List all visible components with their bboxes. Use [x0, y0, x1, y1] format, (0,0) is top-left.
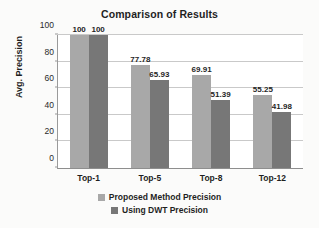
bar[interactable]: 77.78	[131, 65, 150, 168]
bar[interactable]: 100	[89, 35, 108, 168]
y-tick-label: 80	[45, 47, 54, 57]
bar[interactable]: 65.93	[150, 80, 169, 168]
bar-group: 69.9151.39Top-8	[181, 35, 242, 168]
y-tick-label: 40	[45, 100, 54, 110]
bar-value-label: 69.91	[192, 65, 212, 74]
x-tick-label: Top-5	[139, 173, 162, 183]
bar-value-label: 100	[72, 25, 85, 34]
legend-swatch	[98, 194, 105, 201]
y-tick-label: 100	[40, 20, 54, 30]
bar-pair: 100100	[70, 35, 108, 168]
bar[interactable]: 100	[70, 35, 89, 168]
legend-label: Using DWT Precision	[122, 205, 208, 215]
bar-value-label: 65.93	[149, 70, 169, 79]
legend-item[interactable]: Proposed Method Precision	[98, 192, 221, 202]
bar-pair: 77.7865.93	[131, 35, 169, 168]
bar-pair: 69.9151.39	[192, 35, 230, 168]
plot-area: 020406080100 100100Top-177.7865.93Top-56…	[57, 35, 303, 169]
bar-value-label: 100	[91, 25, 104, 34]
y-tick-label: 0	[49, 153, 54, 163]
y-axis-title: Avg. Precision	[14, 24, 24, 110]
legend-item[interactable]: Using DWT Precision	[111, 205, 208, 215]
y-tick-label: 20	[45, 126, 54, 136]
bar-group: 100100Top-1	[58, 35, 119, 168]
x-tick-label: Top-1	[77, 173, 100, 183]
bar-value-label: 41.98	[272, 102, 292, 111]
bar[interactable]: 55.25	[253, 95, 272, 168]
bar[interactable]: 51.39	[211, 100, 230, 168]
x-tick-label: Top-12	[259, 173, 286, 183]
legend-swatch	[111, 207, 118, 214]
bar-value-label: 51.39	[211, 90, 231, 99]
bar-value-label: 77.78	[130, 55, 150, 64]
bar-pair: 55.2541.98	[253, 35, 291, 168]
bar-group: 77.7865.93Top-5	[119, 35, 180, 168]
legend-label: Proposed Method Precision	[109, 192, 221, 202]
x-tick-label: Top-8	[200, 173, 223, 183]
chart-title: Comparison of Results	[0, 8, 319, 20]
y-tick-label: 60	[45, 73, 54, 83]
bar-group: 55.2541.98Top-12	[242, 35, 303, 168]
bar[interactable]: 69.91	[192, 75, 211, 168]
chart-container: Comparison of Results Avg. Precision 020…	[0, 0, 319, 228]
chart-legend: Proposed Method PrecisionUsing DWT Preci…	[0, 192, 319, 215]
bar-value-label: 55.25	[253, 85, 273, 94]
bar[interactable]: 41.98	[272, 112, 291, 168]
